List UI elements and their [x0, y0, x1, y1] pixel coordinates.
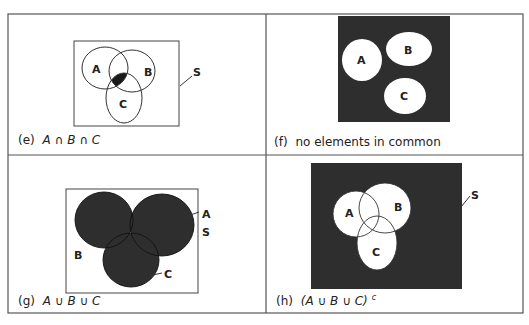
set-b-label: B: [144, 66, 152, 79]
set-c-label: C: [119, 98, 127, 111]
panel-h: A B C S (h) (A ∪ B ∪ C) c: [276, 163, 479, 308]
set-a-label: A: [357, 54, 366, 67]
caption-e: (e) A ∩ B ∩ C: [18, 133, 101, 147]
s-leader-line: [461, 196, 470, 207]
s-leader-line: [180, 76, 192, 86]
set-s-label: S: [193, 66, 201, 79]
panel-g: A S B C (g) A ∪ B ∪ C: [18, 189, 211, 308]
set-b-label: B: [404, 44, 412, 57]
venn-diagram-figure: A B C S (e) A ∩ B ∩ C A B C (f) no eleme…: [0, 0, 529, 325]
set-c-label: C: [400, 90, 408, 103]
set-a-label: A: [92, 63, 101, 76]
set-b-label: B: [74, 249, 82, 262]
set-a-label: A: [202, 208, 211, 221]
caption-h: (h) (A ∪ B ∪ C) c: [276, 293, 377, 308]
set-c-label: C: [372, 246, 380, 259]
caption-g: (g) A ∪ B ∪ C: [18, 294, 101, 308]
set-b-label: B: [394, 201, 402, 214]
set-s-label: S: [471, 189, 479, 202]
panel-f: A B C (f) no elements in common: [274, 16, 450, 149]
set-a-label: A: [345, 207, 354, 220]
caption-f: (f) no elements in common: [274, 135, 441, 149]
set-s-label: S: [202, 226, 210, 239]
panel-e: A B C S (e) A ∩ B ∩ C: [18, 41, 201, 147]
set-c-label: C: [164, 268, 172, 281]
